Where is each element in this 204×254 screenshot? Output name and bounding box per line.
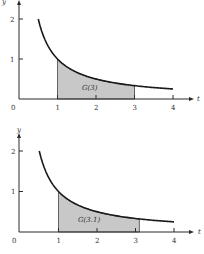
y-axis-arrow-icon <box>17 0 21 5</box>
figure: 1 2 3 4 0 1 2 t y G(3) 1 2 3 4 0 1 <box>0 0 204 254</box>
origin-label: 0 <box>12 237 16 245</box>
x-tick-label: 3 <box>134 237 138 245</box>
plot-bottom: 1 2 3 4 0 1 2 t y G(3.1) <box>11 126 201 245</box>
y-ticks-bottom <box>19 151 23 192</box>
x-tick-label: 1 <box>57 237 61 245</box>
x-axis-arrow-icon <box>189 230 194 234</box>
y-tick-label: 2 <box>10 16 14 24</box>
y-tick-label: 1 <box>11 188 15 196</box>
x-axis-arrow-icon <box>189 97 194 101</box>
y-axis-label: y <box>16 126 22 134</box>
origin-label: 0 <box>11 104 15 112</box>
area-annotation: G(3) <box>82 84 98 92</box>
x-tick-label: 4 <box>171 104 176 112</box>
y-ticks-top <box>19 19 23 59</box>
x-axis-label: t <box>198 228 201 236</box>
plot-top: 1 2 3 4 0 1 2 t y G(3) <box>1 0 200 112</box>
x-tick-label: 2 <box>95 237 99 245</box>
y-axis-label: y <box>1 0 7 6</box>
x-axis-label: t <box>197 95 200 103</box>
y-tick-label: 2 <box>11 148 15 156</box>
x-tick-label: 1 <box>56 104 60 112</box>
y-tick-label: 1 <box>10 56 14 64</box>
x-tick-label: 4 <box>172 237 177 245</box>
x-tick-label: 2 <box>94 104 98 112</box>
x-tick-label: 3 <box>133 104 137 112</box>
area-annotation: G(3.1) <box>78 216 100 224</box>
